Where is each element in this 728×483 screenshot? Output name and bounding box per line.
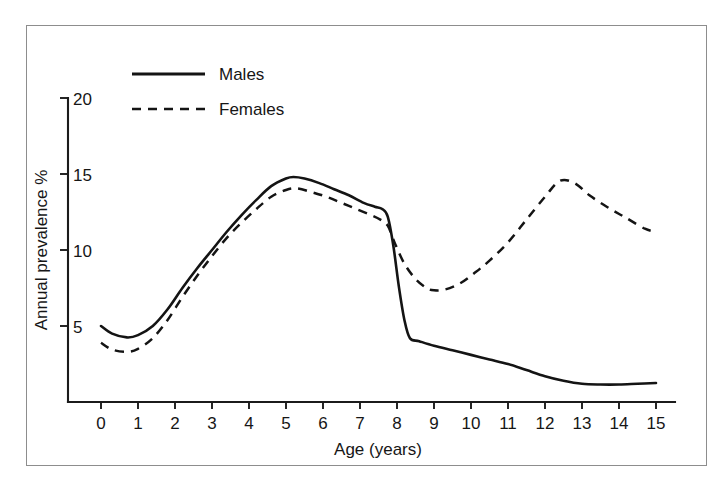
figure-caption — [26, 468, 707, 483]
y-tick-label-20: 20 — [73, 90, 92, 109]
x-tick-label-14: 14 — [610, 414, 629, 433]
x-tick-label-1: 1 — [133, 414, 142, 433]
x-tick-label-15: 15 — [647, 414, 666, 433]
figure-root: 20 15 10 5 — [0, 0, 728, 483]
line-chart: 20 15 10 5 — [27, 26, 706, 465]
chart-frame: 20 15 10 5 — [26, 25, 707, 466]
x-tick-label-5: 5 — [281, 414, 290, 433]
chart-legend: Males Females — [132, 65, 284, 119]
x-axis-title: Age (years) — [334, 440, 422, 459]
legend-label-females: Females — [219, 100, 284, 119]
series-line-males — [101, 177, 656, 385]
x-tick-label-4: 4 — [244, 414, 253, 433]
y-axis-title: Annual prevalence % — [32, 170, 51, 331]
y-tick-label-10: 10 — [73, 242, 92, 261]
x-tick-label-6: 6 — [318, 414, 327, 433]
x-axis — [68, 402, 675, 409]
y-tick-label-5: 5 — [73, 318, 82, 337]
x-tick-label-12: 12 — [536, 414, 555, 433]
x-tick-label-7: 7 — [355, 414, 364, 433]
x-tick-label-10: 10 — [462, 414, 481, 433]
x-tick-label-2: 2 — [170, 414, 179, 433]
x-tick-label-0: 0 — [96, 414, 105, 433]
legend-label-males: Males — [219, 65, 264, 84]
x-tick-label-3: 3 — [207, 414, 216, 433]
x-tick-label-11: 11 — [499, 414, 517, 433]
x-tick-label-13: 13 — [573, 414, 592, 433]
x-tick-label-9: 9 — [429, 414, 438, 433]
y-axis — [60, 98, 68, 402]
y-tick-label-15: 15 — [73, 166, 92, 185]
series-line-females — [101, 180, 656, 352]
x-tick-label-8: 8 — [392, 414, 401, 433]
